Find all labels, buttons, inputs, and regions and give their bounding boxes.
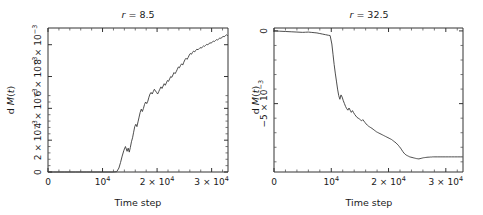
axis-ticks-right — [274, 28, 463, 172]
chart-svg-right: 01042 × 1043 × 104 0−5 × 10−3 r = 32.5 T… — [241, 0, 483, 215]
axis-ticks-left — [48, 28, 228, 172]
x-tick-labels-left: 01042 × 1043 × 104 — [45, 175, 229, 187]
svg-text:2 × 104: 2 × 104 — [371, 175, 406, 187]
svg-text:0: 0 — [271, 177, 277, 187]
x-tick-labels-right: 01042 × 1043 × 104 — [271, 175, 463, 187]
svg-text:3 × 104: 3 × 104 — [429, 175, 464, 187]
chart-svg-left: 01042 × 1043 × 104 02 × 10−34 × 10−36 × … — [0, 0, 242, 215]
data-series-line-left — [48, 35, 227, 172]
y-tick-labels-left: 02 × 10−34 × 10−36 × 10−38 × 10−3 — [31, 25, 43, 175]
svg-text:104: 104 — [323, 175, 339, 187]
y-axis-label-left: d M(t) — [5, 86, 16, 114]
axis-frame-right — [274, 28, 463, 172]
x-axis-label-right: Time step — [345, 197, 393, 208]
svg-text:3 × 104: 3 × 104 — [194, 175, 229, 187]
chart-panel-right: 01042 × 1043 × 104 0−5 × 10−3 r = 32.5 T… — [241, 0, 483, 215]
plot-area-right — [274, 28, 463, 172]
panel-title-right: r = 32.5 — [349, 9, 388, 20]
plot-area-left — [48, 28, 228, 172]
x-axis-label-left: Time step — [114, 197, 162, 208]
svg-text:104: 104 — [95, 175, 111, 187]
svg-text:0: 0 — [259, 28, 269, 34]
axis-frame-left — [48, 28, 228, 172]
svg-text:2 × 104: 2 × 104 — [140, 175, 175, 187]
data-series-line-right — [274, 31, 462, 159]
chart-panel-left: 01042 × 1043 × 104 02 × 10−34 × 10−36 × … — [0, 0, 242, 215]
svg-text:8 × 10−3: 8 × 10−3 — [31, 25, 43, 65]
svg-text:0: 0 — [33, 169, 43, 175]
y-axis-label-right: d M(t) — [250, 86, 261, 114]
svg-text:0: 0 — [45, 177, 51, 187]
figure-root: 01042 × 1043 × 104 02 × 10−34 × 10−36 × … — [0, 0, 483, 215]
panel-title-left: r = 8.5 — [121, 9, 154, 20]
